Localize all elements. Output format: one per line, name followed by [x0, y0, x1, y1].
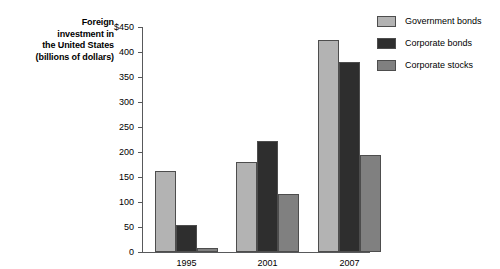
y-axis-tick-label: $450: [102, 23, 134, 32]
y-axis-tick-label: 200: [102, 148, 134, 157]
y-axis-tick-label: 100: [102, 198, 134, 207]
bar-2007-corporate-bonds: [339, 62, 360, 252]
y-axis-title-line-1: Foreign: [8, 17, 114, 29]
bar-2001-government-bonds: [236, 162, 257, 252]
x-axis-label-2007: 2007: [320, 258, 380, 268]
bar-1995-corporate-stocks: [197, 248, 218, 252]
y-axis-tick: [138, 252, 143, 253]
y-axis-tick: [138, 27, 143, 28]
y-axis-tick: [138, 102, 143, 103]
y-axis-tick-label: 150: [102, 173, 134, 182]
legend-label: Government bonds: [405, 16, 482, 26]
y-axis-tick: [138, 177, 143, 178]
y-axis-tick: [138, 127, 143, 128]
y-axis-tick: [138, 52, 143, 53]
y-axis-tick-label: 50: [102, 223, 134, 232]
bar-2001-corporate-stocks: [278, 194, 299, 253]
y-axis-tick-label: 0: [102, 248, 134, 257]
y-axis-title-line-4: (billions of dollars): [8, 52, 114, 64]
legend-swatch-icon: [377, 38, 396, 49]
bar-2001-corporate-bonds: [257, 141, 278, 252]
legend-swatch-icon: [377, 16, 396, 27]
legend-item: Corporate stocks: [377, 54, 495, 76]
y-axis-tick: [138, 227, 143, 228]
y-axis-tick-label: 350: [102, 73, 134, 82]
x-axis-label-1995: 1995: [157, 258, 217, 268]
bar-chart-figure: Foreign investment in the United States …: [0, 0, 500, 269]
y-axis-title: Foreign investment in the United States …: [8, 17, 114, 63]
legend: Government bondsCorporate bondsCorporate…: [377, 10, 495, 76]
bar-1995-government-bonds: [155, 171, 176, 253]
y-axis-tick-label: 400: [102, 48, 134, 57]
plot-area: 050100150200250300350400$450 19952001200…: [142, 24, 370, 252]
y-axis-tick-label: 250: [102, 123, 134, 132]
legend-item: Government bonds: [377, 10, 495, 32]
bar-1995-corporate-bonds: [176, 225, 197, 253]
x-axis-label-2001: 2001: [238, 258, 298, 268]
legend-label: Corporate stocks: [405, 60, 473, 70]
y-axis-line: [142, 27, 143, 252]
legend-item: Corporate bonds: [377, 32, 495, 54]
y-axis-title-line-3: the United States: [8, 40, 114, 52]
legend-label: Corporate bonds: [405, 38, 472, 48]
bar-2007-government-bonds: [318, 40, 339, 252]
y-axis-tick: [138, 152, 143, 153]
y-axis-tick: [138, 77, 143, 78]
legend-swatch-icon: [377, 60, 396, 71]
y-axis-title-line-2: investment in: [8, 29, 114, 41]
x-axis-line: [142, 252, 370, 253]
y-axis-tick-label: 300: [102, 98, 134, 107]
y-axis-tick: [138, 202, 143, 203]
bar-2007-corporate-stocks: [360, 155, 381, 252]
